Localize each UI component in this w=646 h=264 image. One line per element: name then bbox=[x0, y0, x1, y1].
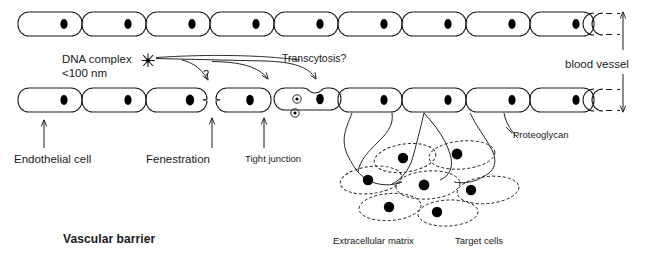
endothelial-cell-label: Endothelial cell bbox=[14, 152, 91, 166]
endothelial-cell bbox=[338, 12, 402, 36]
endothelial-cell-fenestrated-right bbox=[216, 88, 271, 112]
endothelial-cell bbox=[18, 88, 82, 112]
endothelial-cell bbox=[82, 12, 146, 36]
transcytosis-vesicles bbox=[291, 95, 301, 117]
endothelial-cell-fenestrated-left bbox=[146, 88, 207, 112]
dna-complex-label: DNA complex bbox=[62, 52, 132, 66]
endothelial-cell-transcytosis bbox=[274, 88, 341, 110]
blood-vessel-label: blood vessel bbox=[565, 57, 629, 71]
target-cell bbox=[456, 173, 520, 206]
extracellular-matrix-label: Extracellular matrix bbox=[333, 235, 414, 247]
endothelial-cell bbox=[530, 12, 594, 36]
callout-arrows bbox=[44, 118, 264, 148]
endothelial-cell bbox=[466, 88, 530, 112]
proteoglycan-label: Proteoglycan bbox=[513, 129, 568, 141]
top-row-nuclei bbox=[60, 19, 579, 29]
endothelial-cell bbox=[530, 88, 594, 112]
bottom-row-nuclei bbox=[60, 94, 579, 106]
target-cell bbox=[417, 198, 478, 227]
endothelial-cell bbox=[274, 12, 338, 36]
dna-complex-marker bbox=[142, 54, 156, 68]
target-cells-label: Target cells bbox=[455, 235, 503, 247]
endothelial-cell bbox=[402, 12, 466, 36]
fenestration-label: Fenestration bbox=[146, 152, 210, 166]
vascular-barrier-title: Vascular barrier bbox=[63, 232, 155, 247]
transcytosis-label: Transcytosis? bbox=[282, 52, 346, 65]
pathway-leader bbox=[156, 59, 265, 62]
endothelial-cell bbox=[402, 88, 466, 112]
endothelial-cell bbox=[146, 12, 210, 36]
endothelial-cell bbox=[338, 88, 402, 112]
endothelial-cell bbox=[82, 88, 146, 112]
question-mark-label: ? bbox=[203, 68, 209, 82]
dna-complex-size-label: <100 nm bbox=[62, 66, 107, 80]
vascular-barrier-figure: DNA complex <100 nm Transcytosis? ? bloo… bbox=[0, 0, 646, 264]
paracellular-pathway-arrow bbox=[212, 62, 268, 80]
endothelial-cell bbox=[210, 12, 274, 36]
proteoglycan-strands bbox=[344, 113, 518, 185]
continuation-dashes bbox=[606, 14, 620, 35]
continuation-dashes bbox=[606, 90, 620, 111]
tight-junction-label: Tight junction bbox=[245, 153, 301, 165]
endothelial-cell bbox=[466, 12, 530, 36]
endothelial-cell bbox=[18, 12, 82, 36]
